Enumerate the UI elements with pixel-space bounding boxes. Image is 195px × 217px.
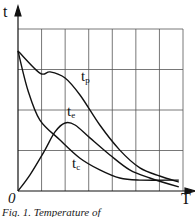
curve-t-p xyxy=(18,51,179,182)
series-label-te: te xyxy=(67,103,75,120)
axes xyxy=(15,6,195,194)
y-axis-label: t xyxy=(3,3,7,21)
grid xyxy=(18,29,183,191)
figure-caption: Fig. 1. Temperature of xyxy=(2,206,101,217)
series-label-tp: tp xyxy=(81,68,90,85)
series-label-tc: tc xyxy=(72,155,80,172)
curve-t-c xyxy=(18,51,179,180)
x-axis-label: T xyxy=(181,190,191,208)
origin-label: 0 xyxy=(8,190,16,207)
chart xyxy=(0,0,195,217)
curves xyxy=(18,51,179,191)
y-axis-arrow-icon xyxy=(15,6,21,16)
